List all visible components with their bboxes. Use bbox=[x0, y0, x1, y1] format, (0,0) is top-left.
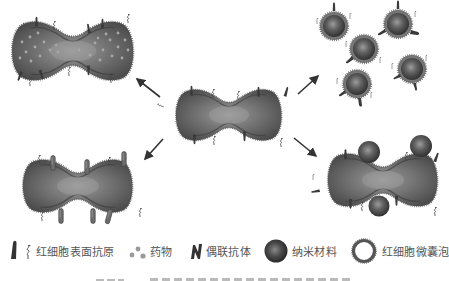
legend-label: 红细胞微囊泡 bbox=[382, 243, 449, 259]
legend-item-antibody: 偶联抗体 bbox=[188, 238, 251, 264]
drug-icon bbox=[128, 239, 150, 263]
legend-label: 偶联抗体 bbox=[206, 243, 251, 259]
legend-item-nanomaterial: 纳米材料 bbox=[262, 238, 337, 264]
coated-nanoparticle bbox=[317, 3, 352, 41]
coated-nanoparticle bbox=[346, 35, 382, 63]
coated-nanoparticle bbox=[378, 1, 419, 39]
arrow-to-bottom-left bbox=[145, 139, 163, 159]
rbc-center bbox=[157, 86, 289, 147]
antibody-icon bbox=[188, 239, 206, 263]
arrow-to-top-right bbox=[298, 76, 318, 94]
legend-label: 纳米材料 bbox=[292, 243, 337, 259]
legend-item-rbc-vesicle: 红细胞微囊泡 bbox=[350, 238, 449, 264]
arrow-to-top-left bbox=[137, 79, 160, 97]
attached-nanoparticle bbox=[410, 135, 432, 157]
legend-label: 药物 bbox=[150, 243, 172, 259]
figure-caption-clipped bbox=[0, 274, 449, 281]
attached-nanoparticle bbox=[369, 196, 390, 217]
legend-label: 红细胞表面抗原 bbox=[36, 243, 114, 259]
arrow-to-bottom-right bbox=[294, 138, 316, 156]
legend-item-drug: 药物 bbox=[128, 238, 172, 264]
rbc-nanomaterial-attached bbox=[311, 135, 439, 217]
coated-nanoparticle bbox=[392, 55, 428, 91]
caption-text-fragment bbox=[0, 277, 449, 281]
coated-nanoparticle bbox=[337, 70, 373, 107]
antigen-icon bbox=[6, 239, 36, 263]
rbc-membrane-coated-nanoparticles bbox=[317, 1, 428, 107]
legend: 红细胞表面抗原 药物 偶联抗体 纳米材料 bbox=[0, 238, 449, 264]
rbc-vesicle-icon bbox=[350, 238, 382, 264]
legend-item-antigen: 红细胞表面抗原 bbox=[6, 238, 114, 264]
rbc-drug-loaded bbox=[12, 14, 133, 86]
nanomaterial-icon bbox=[262, 238, 292, 264]
attached-nanoparticle bbox=[358, 141, 380, 163]
rbc-antibody-coupled bbox=[23, 152, 142, 225]
